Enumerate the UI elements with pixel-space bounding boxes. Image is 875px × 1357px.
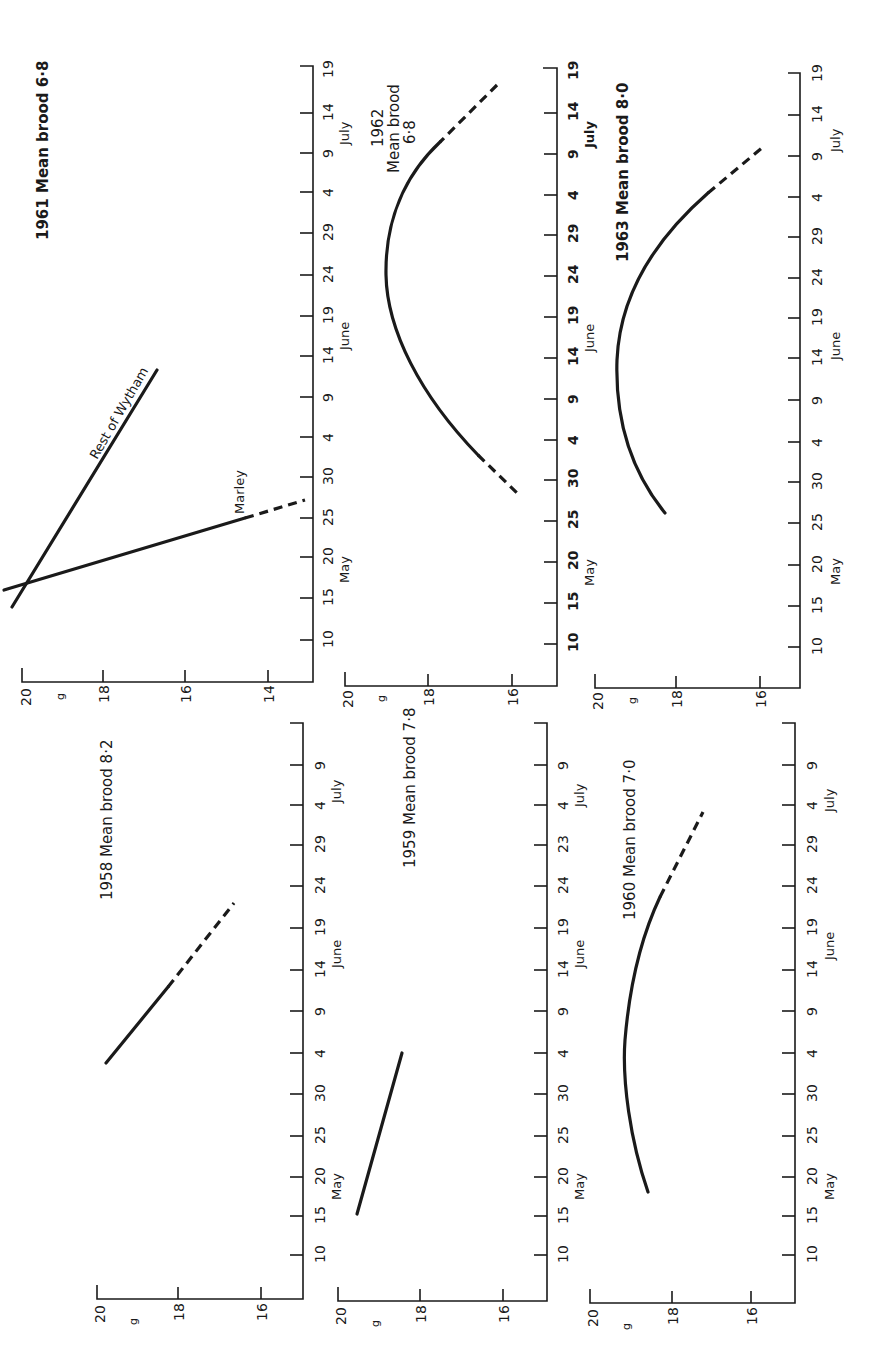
panel-1960-title: 1960 Mean brood 7·0 [621,760,639,920]
x-tick: 14 [804,960,820,978]
x-tick: 20 [804,1167,820,1185]
month-label-may: May [828,558,843,585]
panel-1958-date-ticks [290,765,303,1255]
y-tick: 18 [669,690,685,708]
y-tick: 16 [505,688,521,706]
series-marley-dashed [245,500,305,518]
y-tick: 20 [92,1305,108,1323]
x-tick: 14 [565,346,581,366]
y-tick: 16 [496,1305,512,1323]
y-tick: 16 [753,690,769,708]
panel-1962-axes [345,68,557,686]
month-label-june: June [828,332,843,361]
panel-1961: 20 g 18 16 14 10 15 20 25 30 4 9 14 [4,60,352,706]
y-tick: 20 [333,1307,349,1325]
x-tick: 9 [312,1007,328,1016]
month-label-june: June [822,932,837,961]
x-tick: 4 [804,801,820,810]
x-tick: 20 [565,550,581,570]
x-tick: 9 [565,394,581,404]
y-unit: g [620,1323,633,1330]
y-tick: 20 [590,692,606,710]
panel-1963: 20 g 18 16 10 15 20 25 30 4 9 14 19 24 [590,64,843,710]
x-tick: 9 [555,1007,571,1016]
panel-1961-axes [22,66,313,682]
month-label-july: July [337,121,352,146]
y-unit: g [127,1318,140,1325]
y-tick: 18 [665,1307,681,1325]
month-label-july: July [822,788,837,813]
series-1960-dashed [660,812,703,897]
month-label-july: July [329,779,344,804]
x-tick: 25 [804,1126,820,1144]
x-tick: 24 [312,876,328,894]
panel-1960: 20 g 18 16 10 15 20 25 30 4 9 14 19 24 2… [585,723,837,1330]
x-tick: 14 [809,105,825,123]
panel-1962-title-value: 6·8 [401,120,419,144]
y-tick: 18 [421,688,437,706]
x-tick: 9 [809,396,825,405]
x-tick: 30 [320,467,336,485]
x-tick: 15 [312,1206,328,1224]
x-tick: 19 [565,61,581,80]
x-tick: 20 [320,547,336,565]
y-tick: 20 [585,1309,601,1327]
x-tick: 10 [804,1245,820,1263]
panel-1958-title: 1958 Mean brood 8·2 [98,740,116,900]
x-tick: 19 [809,64,825,82]
x-tick: 4 [320,188,336,197]
panel-1958-axes [97,723,303,1299]
x-tick: 4 [312,801,328,810]
x-tick: 15 [804,1206,820,1224]
x-tick: 24 [320,265,336,283]
x-tick: 9 [320,149,336,158]
panel-1961-date-ticks [300,113,313,640]
x-tick: 4 [565,190,581,200]
x-tick: 4 [565,435,581,445]
x-tick: 10 [809,637,825,655]
x-tick: 4 [555,1049,571,1058]
y-tick: 20 [18,688,34,706]
x-tick: 19 [804,918,820,936]
series-1962-dashed-top [440,85,497,142]
y-tick: 16 [178,685,194,703]
panel-1959-axes [338,723,547,1301]
x-tick: 14 [809,348,825,366]
panel-1959: 20 g 18 16 10 15 20 25 30 4 9 14 19 24 2… [333,708,587,1327]
x-tick: 4 [809,193,825,202]
x-tick: 25 [809,513,825,531]
x-tick: 14 [555,960,571,978]
x-tick: 24 [804,876,820,894]
y-unit: g [626,697,639,704]
x-tick: 30 [809,472,825,490]
month-label-may: May [337,556,352,583]
y-unit: g [375,695,388,702]
x-tick: 9 [320,393,336,402]
x-tick: 30 [565,468,581,488]
x-tick: 14 [312,960,328,978]
panel-1960-date-ticks [782,765,795,1255]
month-label-july: July [572,783,587,808]
x-tick: 14 [565,101,581,121]
x-tick: 15 [565,592,581,611]
month-label-june: June [329,940,344,969]
x-tick: 19 [809,308,825,326]
x-tick: 20 [809,555,825,573]
x-tick: 14 [320,346,336,364]
month-label-june: June [337,322,352,351]
series-label-marley: Marley [232,470,247,514]
y-unit: g [54,693,67,700]
x-tick: 20 [312,1167,328,1185]
x-tick: 19 [320,306,336,324]
x-tick: 29 [565,224,581,243]
series-rest-of-wytham [12,370,157,607]
x-tick: 29 [320,223,336,241]
y-tick: 18 [413,1305,429,1323]
x-tick: 4 [320,433,336,442]
x-tick: 4 [312,1049,328,1058]
y-tick: 18 [96,685,112,703]
x-tick: 19 [312,918,328,936]
x-tick: 29 [809,227,825,245]
x-tick: 25 [320,508,336,526]
x-tick: 4 [555,801,571,810]
